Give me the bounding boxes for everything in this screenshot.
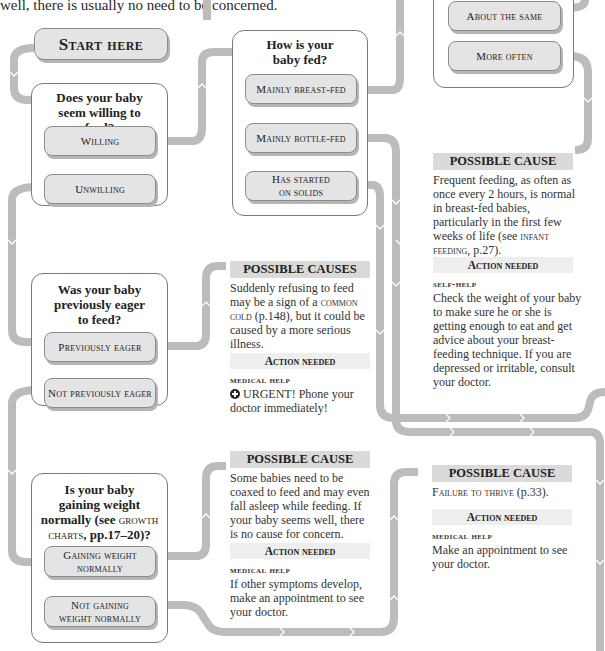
- self-help-label: SELF-HELP: [433, 279, 476, 289]
- result-heading: POSSIBLE CAUSE: [230, 451, 370, 468]
- link-failure-to-thrive[interactable]: Failure to thrive: [432, 485, 514, 499]
- medical-help-text: If other symptoms develop, make an appoi…: [230, 577, 375, 619]
- urgent-icon: [230, 389, 240, 399]
- option-label: Not gaining: [71, 599, 129, 612]
- option-label: More often: [476, 50, 532, 63]
- result-heading: POSSIBLE CAUSES: [230, 261, 370, 278]
- link-growth-charts[interactable]: growth: [119, 512, 159, 527]
- result-heading: POSSIBLE CAUSE: [432, 465, 572, 482]
- result-heading: POSSIBLE CAUSE: [433, 153, 573, 170]
- action-needed-heading: Action needed: [432, 509, 572, 525]
- action-needed-heading: Action needed: [230, 543, 370, 559]
- option-label: Unwilling: [75, 183, 125, 196]
- question-title: Was your baby previously eager to feed?: [32, 282, 167, 327]
- option-label: Mainly breast-fed: [256, 83, 345, 96]
- option-label: Willing: [81, 135, 119, 148]
- option-label: weight normally: [59, 612, 141, 625]
- option-label: on solids: [279, 186, 323, 199]
- result-body: Suddenly refusing to feed may be a sign …: [230, 281, 370, 351]
- option-started-solids[interactable]: Has started on solids: [245, 171, 357, 201]
- start-here-label: Start here: [59, 38, 144, 51]
- option-label: About the same: [467, 10, 543, 23]
- action-needed-heading: Action needed: [433, 257, 573, 273]
- option-not-previously-eager[interactable]: Not previously eager: [44, 378, 156, 408]
- option-previously-eager[interactable]: Previously eager: [44, 332, 156, 362]
- question-how-fed: How is your baby fed? Mainly breast-fed …: [232, 30, 368, 216]
- question-previously-eager: Was your baby previously eager to feed? …: [31, 273, 168, 406]
- medical-help-label: MEDICAL HELP: [230, 375, 290, 385]
- option-label: Mainly bottle-fed: [256, 132, 345, 145]
- start-here-button[interactable]: Start here: [34, 28, 168, 60]
- self-help-text: Check the weight of your baby to make su…: [433, 291, 583, 389]
- option-label: Gaining weight: [63, 549, 136, 562]
- option-label: normally: [77, 562, 123, 575]
- option-unwilling[interactable]: Unwilling: [44, 174, 156, 204]
- option-mainly-breast-fed[interactable]: Mainly breast-fed: [245, 74, 357, 104]
- option-willing[interactable]: Willing: [44, 126, 156, 156]
- option-more-often[interactable]: More often: [448, 41, 561, 71]
- option-gaining-weight-normally[interactable]: Gaining weight normally: [44, 546, 156, 577]
- medical-help-label: MEDICAL HELP: [432, 531, 492, 541]
- result-body: Frequent feeding, as often as once every…: [433, 173, 583, 257]
- medical-help-label: MEDICAL HELP: [230, 565, 290, 575]
- option-label: Previously eager: [58, 341, 141, 354]
- option-about-the-same[interactable]: About the same: [448, 1, 561, 31]
- action-needed-heading: Action needed: [230, 353, 370, 369]
- result-body: Some babies need to be coaxed to feed an…: [230, 471, 375, 541]
- question-gaining-weight: Is your baby gaining weight normally (se…: [31, 473, 168, 643]
- question-willing-to-feed: Does your baby seem willing to feed? Wil…: [31, 83, 168, 206]
- option-mainly-bottle-fed[interactable]: Mainly bottle-fed: [245, 123, 357, 153]
- option-not-gaining-weight[interactable]: Not gaining weight normally: [44, 596, 156, 627]
- medical-help-text: Make an appointment to see your doctor.: [432, 543, 582, 571]
- medical-help-text: URGENT! Phone your doctor immediately!: [230, 387, 370, 415]
- result-body: Failure to thrive (p.33).: [432, 485, 582, 499]
- question-title: How is your baby fed?: [233, 37, 367, 67]
- option-label: Has started: [272, 173, 330, 186]
- option-label: Not previously eager: [48, 387, 152, 400]
- question-title: Is your baby gaining weight normally (se…: [32, 482, 167, 542]
- question-feeding-frequency: About the same More often: [433, 0, 574, 88]
